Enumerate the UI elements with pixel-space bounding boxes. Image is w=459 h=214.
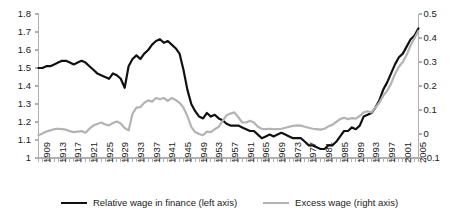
legend-item-1: Excess wage (right axis): [263, 198, 398, 208]
x-axis-tick-label: 1945: [183, 142, 193, 163]
x-axis-tick-label: 1989: [356, 142, 366, 163]
x-axis-tick-label: 1921: [89, 142, 99, 163]
legend-label: Relative wage in finance (left axis): [93, 198, 237, 208]
x-axis-tick-label: 1985: [340, 142, 350, 163]
right-axis-tick-label: 0.1: [424, 105, 437, 115]
left-axis-tick-label: 1.8: [0, 9, 31, 19]
legend-line-swatch: [263, 202, 289, 204]
x-axis-tick-label: 1965: [261, 142, 271, 163]
x-axis-tick-label: 1925: [105, 142, 115, 163]
right-axis-tick-label: 0.3: [424, 57, 437, 67]
x-axis-tick-label: 1977: [308, 142, 318, 163]
x-axis-tick-label: 1917: [73, 142, 83, 163]
x-axis-tick-label: 1981: [324, 142, 334, 163]
x-axis-tick-label: 1933: [136, 142, 146, 163]
chart-plot-area: [0, 0, 459, 214]
x-axis-tick-label: 1941: [167, 142, 177, 163]
x-axis-tick-label: 1993: [371, 142, 381, 163]
x-axis-tick-label: 1949: [199, 142, 209, 163]
left-axis-tick-label: 1.6: [0, 45, 31, 55]
x-axis-tick-label: 1997: [387, 142, 397, 163]
right-axis-tick-label: 0.4: [424, 33, 437, 43]
left-axis-tick-label: 1.5: [0, 63, 31, 73]
x-axis-tick-label: 1929: [120, 142, 130, 163]
x-axis-tick-label: 1953: [214, 142, 224, 163]
x-axis-tick-label: 1957: [230, 142, 240, 163]
series-line-relative-wage: [39, 28, 419, 149]
x-axis-tick-label: 1961: [246, 142, 256, 163]
finance-wage-line-chart: 11.11.21.31.41.51.61.71.8 -0.100.10.20.3…: [0, 0, 459, 214]
left-axis-tick-label: 1.7: [0, 27, 31, 37]
legend-label: Excess wage (right axis): [295, 198, 398, 208]
left-axis-tick-label: 1.3: [0, 99, 31, 109]
x-axis-tick-label: 1969: [277, 142, 287, 163]
x-axis-tick-label: 1973: [293, 142, 303, 163]
left-axis-tick-label: 1.2: [0, 117, 31, 127]
x-axis-tick-label: 1913: [58, 142, 68, 163]
chart-legend: Relative wage in finance (left axis)Exce…: [0, 191, 459, 214]
right-axis-tick-label: 0: [424, 129, 429, 139]
legend-item-0: Relative wage in finance (left axis): [61, 198, 237, 208]
right-axis-tick-label: 0.2: [424, 81, 437, 91]
left-axis-tick-label: 1: [0, 153, 31, 163]
x-axis-tick-label: 1909: [42, 142, 52, 163]
left-axis-tick-label: 1.1: [0, 135, 31, 145]
right-axis-tick-label: 0.5: [424, 9, 437, 19]
x-axis-tick-label: 2005: [418, 142, 428, 163]
legend-line-swatch: [61, 202, 87, 204]
x-axis-tick-label: 2001: [403, 142, 413, 163]
x-axis-tick-label: 1937: [152, 142, 162, 163]
left-axis-tick-label: 1.4: [0, 81, 31, 91]
